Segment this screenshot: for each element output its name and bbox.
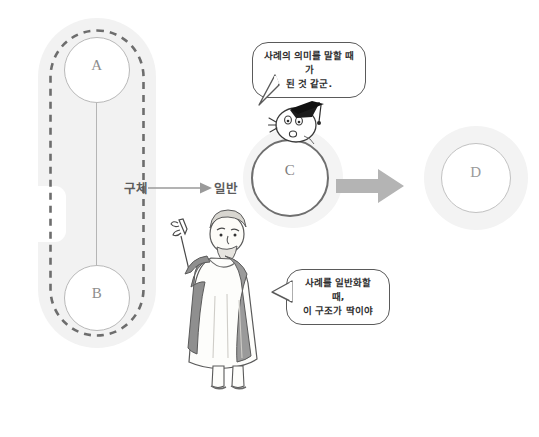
label-gucheche: 구체: [124, 178, 148, 197]
node-b-label: B: [92, 285, 103, 302]
node-d-label: D: [470, 164, 481, 181]
node-b[interactable]: B: [64, 265, 130, 331]
speech-bubble-lower-tail: [270, 278, 294, 306]
specific-to-general-arrow: 구체 일반: [124, 178, 238, 197]
node-a-label: A: [91, 57, 102, 74]
speech-bubble-top-tail: [257, 73, 291, 107]
sage-character: [163, 196, 275, 398]
node-a[interactable]: A: [64, 37, 130, 103]
node-d[interactable]: D: [441, 143, 511, 213]
speech-bubble-lower: 사례를 일반화할 때, 이 구조가 딱이야: [286, 269, 390, 325]
node-c-label: C: [285, 162, 296, 179]
label-ilban: 일반: [214, 178, 238, 197]
arrow-right-icon: [148, 181, 214, 195]
diagram-canvas: A B C D 구체 일반: [0, 0, 539, 437]
speech-bubble-lower-text: 사례를 일반화할 때, 이 구조가 딱이야: [297, 276, 379, 317]
big-arrow-icon: [336, 166, 406, 206]
connector-a-b: [96, 102, 97, 267]
speech-bubble-top: 사례의 의미를 말할 때가 된 것 같군.: [252, 42, 366, 98]
